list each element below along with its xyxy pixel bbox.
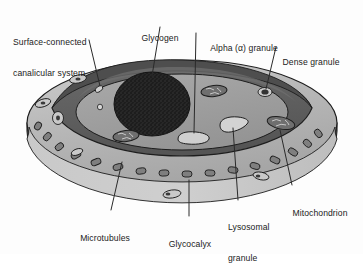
label-line-1: Lysosomal <box>228 222 304 232</box>
label-lysosomal-granule: Lysosomal granule <box>228 201 304 267</box>
label-surface-connected-canalicular-system: Surface-connected canalicular system <box>13 16 129 99</box>
label-line-1: Dense granule <box>263 57 359 67</box>
alpha-granule <box>178 132 209 145</box>
label-line-1: Microtubules <box>62 233 148 243</box>
sccs-vesicle-small <box>97 104 102 110</box>
label-dense-granule: Dense granule <box>263 36 359 88</box>
label-line-2: granule <box>228 253 304 263</box>
label-glycocalyx: Glycocalyx <box>154 218 226 267</box>
label-line-1: Glycocalyx <box>154 239 226 249</box>
label-line-2: canalicular system <box>13 68 129 78</box>
label-glycogen: Glycogen <box>125 12 195 64</box>
dense-granule <box>258 88 272 97</box>
label-line-1: Surface-connected <box>13 37 129 47</box>
label-microtubules: Microtubules <box>62 212 148 264</box>
label-line-1: Glycogen <box>125 33 195 43</box>
